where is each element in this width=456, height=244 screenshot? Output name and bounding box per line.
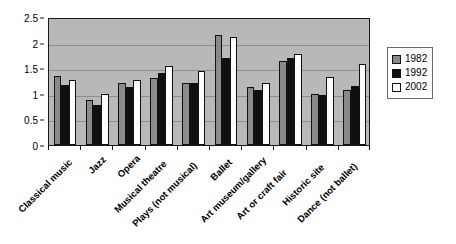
y-axis-tick-label: 0 bbox=[32, 141, 38, 152]
bar bbox=[61, 85, 69, 145]
x-axis-category-label: Art museum/gallery bbox=[198, 154, 269, 225]
x-axis-tick-mark bbox=[306, 146, 307, 150]
bar-group bbox=[81, 19, 113, 145]
bar bbox=[158, 73, 166, 145]
bar bbox=[133, 80, 141, 145]
x-axis-tick-mark bbox=[48, 146, 49, 150]
bar bbox=[311, 94, 319, 145]
bar bbox=[359, 64, 367, 145]
legend-item: 2002 bbox=[392, 80, 427, 94]
bar bbox=[215, 35, 223, 145]
x-axis-tick-mark bbox=[369, 146, 370, 150]
bar bbox=[69, 80, 77, 145]
bar bbox=[247, 87, 255, 145]
legend-swatch-icon bbox=[392, 55, 401, 64]
legend: 198219922002 bbox=[387, 47, 433, 99]
bar-group bbox=[113, 19, 145, 145]
bar-group bbox=[146, 19, 178, 145]
y-axis-tick-label: 1 bbox=[32, 89, 38, 100]
y-axis-tick-mark bbox=[40, 94, 44, 95]
bar bbox=[254, 90, 262, 145]
bar-group bbox=[49, 19, 81, 145]
legend-label: 1992 bbox=[405, 68, 427, 78]
x-axis-tick-mark bbox=[273, 146, 274, 150]
bar bbox=[86, 100, 94, 145]
bar bbox=[93, 105, 101, 145]
bar bbox=[190, 83, 198, 145]
bar-chart: 00.511.522.5 Classical musicJazzOperaMus… bbox=[0, 0, 456, 244]
bar bbox=[54, 76, 62, 145]
legend-swatch-icon bbox=[392, 83, 401, 92]
bar-group bbox=[242, 19, 274, 145]
bar bbox=[165, 66, 173, 145]
x-axis-tick-mark bbox=[177, 146, 178, 150]
bar bbox=[230, 37, 238, 145]
y-axis-tick-mark bbox=[40, 43, 44, 44]
bar bbox=[126, 87, 134, 145]
bar bbox=[222, 58, 230, 145]
x-axis-ticks bbox=[48, 146, 370, 151]
x-axis-tick-mark bbox=[80, 146, 81, 150]
x-axis-tick-mark bbox=[241, 146, 242, 150]
bar-group bbox=[274, 19, 306, 145]
y-axis-tick-mark bbox=[40, 69, 44, 70]
legend-swatch-icon bbox=[392, 69, 401, 78]
y-axis-tick-mark bbox=[40, 120, 44, 121]
bar bbox=[351, 86, 359, 145]
bar bbox=[279, 61, 287, 145]
x-axis-category-label: Dance (not ballet) bbox=[295, 161, 359, 225]
x-axis-tick-mark bbox=[338, 146, 339, 150]
plot-area bbox=[48, 18, 370, 146]
x-axis-tick-mark bbox=[209, 146, 210, 150]
bar-group bbox=[210, 19, 242, 145]
legend-label: 1982 bbox=[405, 54, 427, 64]
bar bbox=[294, 54, 302, 145]
bar-group bbox=[339, 19, 371, 145]
x-axis-category-label: Plays (not musical) bbox=[130, 159, 199, 228]
x-axis-category-label: Ballet bbox=[208, 157, 234, 183]
legend-item: 1982 bbox=[392, 52, 427, 66]
x-axis-category-label: Classical music bbox=[16, 156, 74, 214]
y-axis-tick-label: 2 bbox=[32, 38, 38, 49]
y-axis-tick-label: 0.5 bbox=[24, 115, 38, 126]
bar bbox=[343, 90, 351, 145]
y-axis-tick-label: 2.5 bbox=[24, 13, 38, 24]
bar bbox=[326, 77, 334, 145]
legend-label: 2002 bbox=[405, 82, 427, 92]
bar bbox=[262, 83, 270, 145]
y-axis-tick-label: 1.5 bbox=[24, 64, 38, 75]
x-axis-category-label: Jazz bbox=[86, 154, 108, 176]
legend-item: 1992 bbox=[392, 66, 427, 80]
bar bbox=[287, 58, 295, 145]
x-axis-category-label: Opera bbox=[115, 152, 142, 179]
y-axis-tick-mark bbox=[40, 18, 44, 19]
bar bbox=[319, 95, 327, 145]
x-axis-category-label: Musical theatre bbox=[112, 158, 169, 215]
bar bbox=[118, 83, 126, 145]
bar bbox=[198, 71, 206, 145]
bar-group bbox=[178, 19, 210, 145]
bar bbox=[101, 94, 109, 145]
bar bbox=[182, 83, 190, 145]
y-axis-tick-mark bbox=[40, 146, 44, 147]
x-axis-tick-mark bbox=[112, 146, 113, 150]
bar-group bbox=[307, 19, 339, 145]
x-axis-category-label: Art or craft fair bbox=[234, 166, 289, 221]
bar bbox=[150, 78, 158, 145]
bars-layer bbox=[49, 19, 369, 145]
x-axis-category-label: Historic site bbox=[280, 161, 326, 207]
x-axis-tick-mark bbox=[145, 146, 146, 150]
y-axis: 00.511.522.5 bbox=[0, 18, 44, 146]
